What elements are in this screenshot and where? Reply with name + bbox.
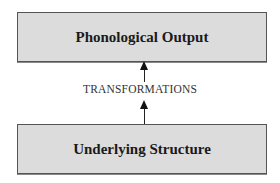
phonological-output-label: Phonological Output bbox=[76, 29, 209, 46]
underlying-structure-box: Underlying Structure bbox=[17, 124, 267, 174]
upper-arrowhead-icon bbox=[140, 61, 148, 70]
upper-arrow-shaft bbox=[144, 69, 145, 82]
phonological-output-box: Phonological Output bbox=[17, 12, 267, 62]
lower-arrowhead-icon bbox=[140, 100, 148, 109]
lower-arrow-shaft bbox=[144, 108, 145, 124]
transformations-label: TRANSFORMATIONS bbox=[0, 83, 280, 95]
underlying-structure-label: Underlying Structure bbox=[73, 141, 211, 158]
